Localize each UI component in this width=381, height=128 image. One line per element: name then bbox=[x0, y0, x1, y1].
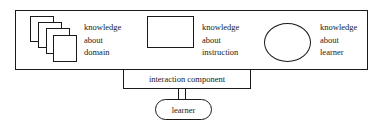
label-line: about bbox=[202, 34, 239, 47]
label-line: about bbox=[84, 34, 121, 47]
label-line: instruction bbox=[202, 46, 239, 59]
label-line: knowledge bbox=[84, 21, 121, 34]
label-line: knowledge bbox=[320, 21, 357, 34]
domain-knowledge-label: knowledge about domain bbox=[84, 21, 121, 59]
interaction-component-label: interaction component bbox=[149, 74, 225, 84]
label-line: about bbox=[320, 34, 357, 47]
instruction-knowledge-label: knowledge about instruction bbox=[202, 21, 239, 59]
learner-knowledge-label: knowledge about learner bbox=[320, 21, 357, 59]
learner-label: learner bbox=[172, 105, 196, 115]
label-line: knowledge bbox=[202, 21, 239, 34]
learner-knowledge-icon bbox=[264, 23, 311, 62]
label-line: learner bbox=[320, 46, 357, 59]
learner-node: learner bbox=[155, 99, 212, 120]
interaction-component-box: interaction component bbox=[123, 69, 251, 89]
instruction-knowledge-icon bbox=[147, 16, 194, 48]
label-line: domain bbox=[84, 46, 121, 59]
